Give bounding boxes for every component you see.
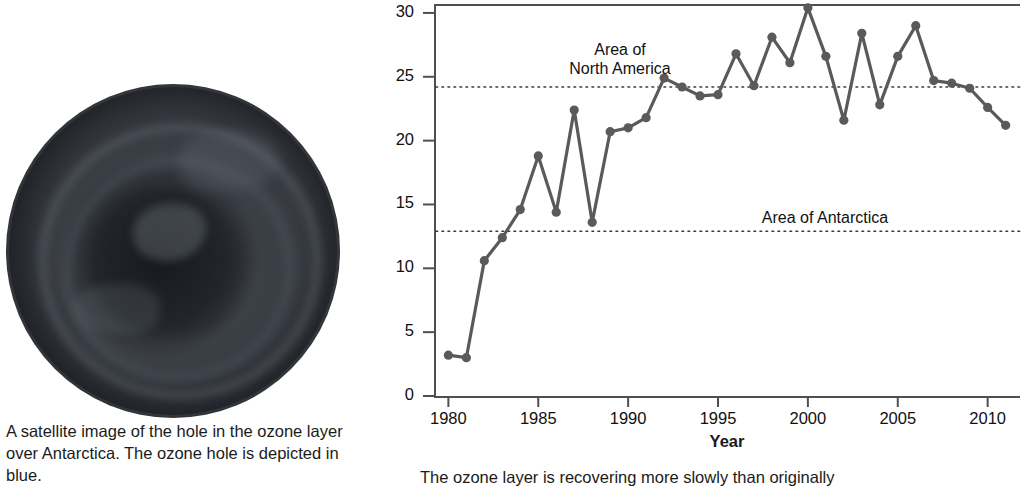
globe-limb [6, 84, 340, 418]
data-point [929, 76, 938, 85]
data-point [606, 127, 615, 136]
data-point [677, 82, 686, 91]
data-point [444, 351, 453, 360]
x-axis-tick-label: 1990 [596, 409, 660, 428]
data-point [552, 208, 561, 217]
data-point [480, 256, 489, 265]
data-point [785, 58, 794, 67]
data-point [462, 353, 471, 362]
data-point [695, 91, 704, 100]
data-point [588, 218, 597, 227]
data-point [875, 100, 884, 109]
y-axis-tick-label: 0 [374, 385, 414, 404]
data-point [1001, 121, 1010, 130]
left-panel: A satellite image of the hole in the ozo… [0, 0, 380, 496]
left-panel-caption: A satellite image of the hole in the ozo… [6, 420, 358, 486]
data-point [713, 90, 722, 99]
antarctic-ozone-hole-satellite-image [6, 84, 340, 418]
x-axis-tick-label: 2000 [776, 409, 840, 428]
data-point [534, 151, 543, 160]
figure-container: A satellite image of the hole in the ozo… [0, 0, 1024, 496]
x-axis-tick-label: 1985 [506, 409, 570, 428]
data-point [642, 113, 651, 122]
data-point [516, 205, 525, 214]
data-point [911, 21, 920, 30]
y-axis-tick-label: 5 [374, 321, 414, 340]
data-point [857, 29, 866, 38]
x-axis-label: Year [434, 432, 1020, 451]
data-point [839, 116, 848, 125]
x-axis-tick-label: 2010 [956, 409, 1020, 428]
annotation-antarctica: Area of Antarctica [710, 208, 940, 227]
data-point [803, 3, 812, 12]
y-axis-tick-label: 30 [374, 2, 414, 21]
x-axis-tick-label: 1995 [686, 409, 750, 428]
y-axis-tick-label: 20 [374, 130, 414, 149]
x-axis-tick-label: 2005 [866, 409, 930, 428]
globe-disc [6, 84, 340, 418]
data-point [767, 33, 776, 42]
y-axis-tick-label: 15 [374, 193, 414, 212]
data-point [570, 105, 579, 114]
data-point [624, 123, 633, 132]
data-point [893, 52, 902, 61]
data-point [965, 84, 974, 93]
chart-panel: Size (million Sq km) 051015202530 198019… [380, 0, 1024, 496]
data-point [749, 81, 758, 90]
x-axis-tick-label: 1980 [416, 409, 480, 428]
y-axis-tick-label: 25 [374, 66, 414, 85]
data-point [947, 79, 956, 88]
right-panel-caption: The ozone layer is recovering more slowl… [420, 466, 1020, 488]
data-point [983, 103, 992, 112]
data-point [731, 49, 740, 58]
y-axis-tick-label: 10 [374, 257, 414, 276]
annotation-north-america: Area of North America [530, 40, 710, 78]
data-point [498, 233, 507, 242]
data-point [821, 52, 830, 61]
